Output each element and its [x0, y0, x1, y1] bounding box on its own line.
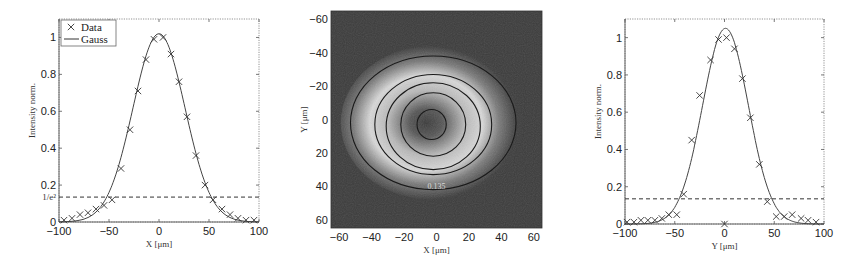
beam-intensity-heatmap: 0.135−60−40−200204060−60−40−200204060X [… — [299, 11, 542, 255]
y-tick-label: 0.8 — [607, 69, 622, 81]
x-tick-label: −20 — [395, 231, 414, 243]
x-tick-label: 50 — [768, 227, 780, 239]
y-tick-label: 0.6 — [607, 106, 622, 118]
x-tick-label: −50 — [100, 225, 119, 237]
x-tick-label: 100 — [815, 227, 833, 239]
legend-entry-gauss: Gauss — [81, 33, 108, 45]
x-tick-label: −40 — [362, 231, 381, 243]
y-tick-label: 0.4 — [607, 143, 622, 155]
y-tick-label: 0 — [50, 216, 56, 228]
y-tick-label: 0.2 — [41, 179, 56, 191]
x-axis-label: X [μm] — [423, 245, 450, 255]
legend: DataGauss — [61, 20, 116, 46]
y-axis-label: Intensity norm. — [27, 83, 37, 138]
x-tick-label: −50 — [665, 227, 684, 239]
y-tick-label: −60 — [309, 13, 328, 25]
x-tick-label: 60 — [528, 231, 540, 243]
y-tick-label: 40 — [316, 180, 328, 192]
image-noise — [331, 11, 542, 228]
x-tick-label: 50 — [203, 225, 215, 237]
y-tick-label: 0.8 — [41, 68, 56, 80]
y-tick-label: 0.4 — [41, 142, 56, 154]
y-tick-label: −40 — [309, 47, 328, 59]
plot-frame — [59, 19, 259, 222]
y-tick-label: 0.6 — [41, 105, 56, 117]
y-tick-label: 0 — [322, 114, 328, 126]
x-tick-label: 0 — [156, 225, 162, 237]
x-tick-label: 0 — [433, 231, 439, 243]
y-axis-label: Intensity norm. — [593, 84, 603, 139]
y-tick-label: 20 — [316, 147, 328, 159]
one-over-e2-tick-label: 1/e² — [42, 192, 56, 202]
x-tick-label: −60 — [330, 231, 349, 243]
y-axis-label: Y [μm] — [299, 106, 309, 132]
x-tick-label: 20 — [463, 231, 475, 243]
y-tick-label: 60 — [316, 214, 328, 226]
x-axis-label: Y [μm] — [711, 241, 737, 251]
x-axis-label: X [μm] — [146, 239, 173, 249]
y-tick-label: −20 — [309, 80, 328, 92]
y-tick-label: 1 — [50, 31, 56, 43]
x-tick-label: 40 — [495, 231, 507, 243]
y-tick-label: 0 — [616, 218, 622, 230]
y-profile-plot: −100−5005010000.20.40.60.81Y [μm]Intensi… — [593, 19, 833, 251]
legend-entry-data: Data — [81, 21, 102, 33]
plot-frame — [625, 19, 824, 224]
contour-label: 0.135 — [428, 182, 446, 191]
y-tick-label: 0.2 — [607, 181, 622, 193]
y-tick-label: 1 — [616, 32, 622, 44]
x-tick-label: 100 — [250, 225, 268, 237]
x-profile-plot: −100−5005010000.20.40.60.811/e²X [μm]Int… — [27, 19, 268, 249]
x-tick-label: 0 — [721, 227, 727, 239]
figure: −100−5005010000.20.40.60.811/e²X [μm]Int… — [0, 0, 864, 269]
